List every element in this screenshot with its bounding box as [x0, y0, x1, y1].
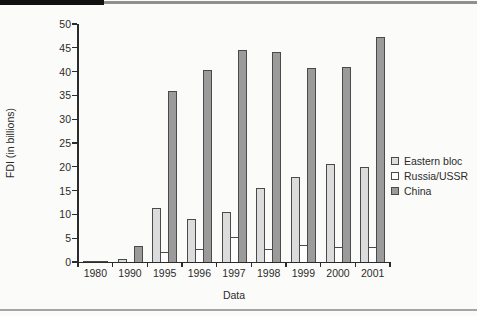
- y-tick-label: 40: [40, 66, 71, 78]
- legend-row-russia-ussr: Russia/USSR: [391, 168, 468, 183]
- y-tick: [72, 71, 77, 72]
- legend-swatch-eastern-bloc: [391, 157, 399, 165]
- y-tick: [72, 23, 77, 24]
- y-tick-label: 30: [40, 113, 71, 125]
- bar-china-1999: [307, 68, 316, 262]
- y-axis-line: [77, 24, 79, 263]
- y-tick-label: 50: [40, 18, 71, 30]
- bar-chart: FDI (in billions) 0510152025303540455019…: [0, 0, 477, 316]
- legend-swatch-china: [391, 187, 399, 195]
- y-tick: [72, 47, 77, 48]
- bar-china-1998: [272, 52, 281, 262]
- bar-china-1990: [134, 246, 143, 262]
- x-axis-title: Data: [78, 289, 390, 301]
- y-tick-label: 5: [40, 232, 71, 244]
- y-tick: [72, 214, 77, 215]
- y-tick-label: 15: [40, 185, 71, 197]
- y-tick: [72, 190, 77, 191]
- bar-china-2000: [342, 67, 351, 262]
- x-tick-label: 1996: [182, 267, 217, 279]
- x-tick-label: 1999: [286, 267, 321, 279]
- y-tick: [72, 142, 77, 143]
- x-tick-label: 1995: [147, 267, 182, 279]
- y-tick-label: 45: [40, 42, 71, 54]
- bar-china-1997: [238, 50, 247, 262]
- x-tick-label: 2001: [355, 267, 390, 279]
- scanned-page: FDI (in billions) 0510152025303540455019…: [0, 0, 477, 316]
- y-tick-label: 0: [40, 256, 71, 268]
- legend-row-china: China: [391, 183, 468, 198]
- bar-china-1995: [168, 91, 177, 262]
- y-tick-label: 25: [40, 137, 71, 149]
- y-tick: [72, 119, 77, 120]
- bar-china-2001: [376, 37, 385, 262]
- bar-china-1980: [99, 261, 108, 263]
- y-axis-title: FDI (in billions): [4, 88, 16, 198]
- x-tick-label: 1990: [113, 267, 148, 279]
- x-tick-label: 1997: [217, 267, 252, 279]
- legend-label-eastern-bloc: Eastern bloc: [404, 155, 462, 167]
- y-tick-label: 35: [40, 89, 71, 101]
- bar-china-1996: [203, 70, 212, 262]
- bar-eastern-bloc-1990: [118, 259, 127, 262]
- y-tick: [72, 261, 77, 262]
- legend-row-eastern-bloc: Eastern bloc: [391, 153, 468, 168]
- x-tick-label: 1980: [78, 267, 113, 279]
- y-tick: [72, 166, 77, 167]
- legend-swatch-russia-ussr: [391, 172, 399, 180]
- y-tick: [72, 238, 77, 239]
- x-tick-label: 2000: [321, 267, 356, 279]
- legend-label-russia-ussr: Russia/USSR: [404, 170, 468, 182]
- bottom-rule: [0, 309, 477, 311]
- y-tick-label: 20: [40, 161, 71, 173]
- legend-label-china: China: [404, 185, 431, 197]
- legend: Eastern bloc Russia/USSR China: [391, 153, 468, 198]
- x-tick-label: 1998: [251, 267, 286, 279]
- y-tick-label: 10: [40, 208, 71, 220]
- y-tick: [72, 95, 77, 96]
